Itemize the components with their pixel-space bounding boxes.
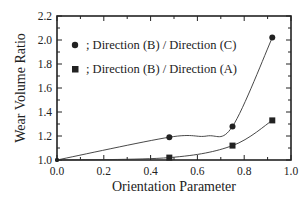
x-tick-label: 0.0 (50, 165, 65, 177)
y-tick-label: 1.6 (38, 82, 53, 94)
wear-volume-chart: 0.00.20.40.60.81.01.01.21.41.61.82.02.2 … (0, 0, 308, 206)
legend-label-b-over-a: ; Direction (B) / Direction (A) (86, 62, 237, 76)
legend-label-b-over-c: ; Direction (B) / Direction (C) (86, 38, 236, 52)
x-tick-label: 1.0 (284, 165, 299, 177)
y-tick-label: 1.2 (38, 130, 53, 142)
chart-svg: 0.00.20.40.60.81.01.01.21.41.61.82.02.2 … (0, 0, 308, 206)
series-markers (55, 35, 275, 162)
legend: ; Direction (B) / Direction (C) ; Direct… (72, 38, 237, 76)
series-curves (57, 38, 272, 160)
x-axis-label: Orientation Parameter (112, 179, 236, 194)
y-tick-label: 1.4 (38, 106, 53, 118)
series-line (57, 120, 272, 160)
data-point-circle (230, 123, 236, 129)
x-tick-label: 0.4 (143, 165, 158, 177)
data-point-circle (269, 35, 275, 41)
data-point-square (230, 143, 236, 149)
legend-circle-marker (72, 42, 78, 48)
axis-tick-labels: 0.00.20.40.60.81.01.01.21.41.61.82.02.2 (38, 10, 299, 177)
data-point-square (269, 117, 275, 123)
series-line (57, 38, 272, 160)
x-tick-label: 0.8 (237, 165, 252, 177)
x-tick-label: 0.6 (190, 165, 205, 177)
y-axis-label: Wear Volume Ratio (13, 33, 28, 143)
y-tick-label: 2.0 (38, 34, 53, 46)
y-tick-label: 1.0 (38, 154, 53, 166)
data-point-circle (166, 134, 172, 140)
data-point-square (166, 155, 172, 161)
y-tick-label: 2.2 (38, 10, 53, 22)
origin-point (55, 158, 59, 162)
legend-square-marker (72, 66, 79, 73)
y-tick-label: 1.8 (38, 58, 53, 70)
x-tick-label: 0.2 (97, 165, 112, 177)
